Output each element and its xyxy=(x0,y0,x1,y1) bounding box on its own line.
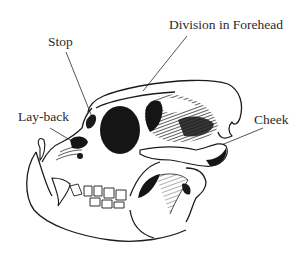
skull-diagram: Division in Forehead Stop Lay-back Cheek xyxy=(0,0,307,256)
label-cheek: Cheek xyxy=(254,113,289,127)
label-division-in-forehead: Division in Forehead xyxy=(169,18,283,32)
label-stop: Stop xyxy=(48,35,73,49)
leader-stop xyxy=(66,52,92,117)
skull-illustration xyxy=(0,0,307,256)
leader-layback xyxy=(50,128,70,140)
tooth-row xyxy=(70,184,126,208)
stop-mark xyxy=(86,114,96,128)
label-lay-back: Lay-back xyxy=(18,110,69,124)
nasal-opening xyxy=(70,136,88,148)
